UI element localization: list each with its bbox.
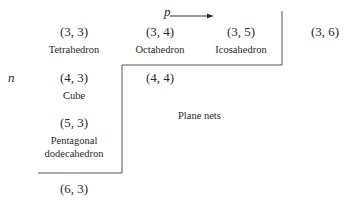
name-pentagonal-dodecahedron: Pentagonal dodecahedron [45, 134, 104, 160]
pair-3-3: (3, 3) [60, 24, 88, 40]
name-octahedron: Octahedron [136, 43, 185, 56]
p-axis-label: p [164, 4, 171, 20]
name-icosahedron: Icosahedron [215, 43, 266, 56]
pair-4-3: (4, 3) [60, 70, 88, 86]
pair-4-4: (4, 4) [146, 70, 174, 86]
plane-nets-label: Plane nets [178, 110, 221, 121]
name-line-1: Pentagonal [45, 134, 104, 147]
pair-6-3: (6, 3) [60, 181, 88, 197]
n-axis-label: n [8, 70, 15, 86]
name-line-2: dodecahedron [45, 147, 104, 160]
name-tetrahedron: Tetrahedron [49, 43, 100, 56]
pair-3-4: (3, 4) [146, 24, 174, 40]
name-cube: Cube [63, 89, 85, 102]
pair-3-6: (3, 6) [311, 24, 339, 40]
pair-3-5: (3, 5) [227, 24, 255, 40]
pair-5-3: (5, 3) [60, 115, 88, 131]
